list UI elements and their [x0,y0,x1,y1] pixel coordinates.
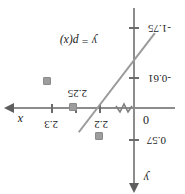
y-axis-label: y [144,172,149,184]
y-tick-label--1.75: -1.75 [148,23,171,34]
y-axis-line [133,8,135,190]
x-tick-label-2.2: 2.2 [94,119,108,130]
graph-canvas: 2.2 2.25 2.3 0.57 -0.61 -1.75 0 x y y = … [0,0,185,194]
x-tick-label-2.25: 2.25 [68,88,87,99]
y-tick-mark-2 [129,77,139,79]
data-point-2 [69,103,77,111]
y-axis-arrow-icon [130,183,140,193]
data-point-3 [43,77,51,85]
x-axis-arrow-icon [4,104,14,114]
y-tick-label--0.61: -0.61 [148,73,171,84]
origin-label: 0 [143,114,149,126]
y-tick-label-0.57: 0.57 [147,135,166,146]
y-tick-mark-1 [129,139,139,141]
x-tick-mark-3 [51,104,53,113]
data-point-1 [95,132,103,140]
axis-break-icon [113,101,133,115]
x-axis-label: x [18,114,23,126]
x-tick-label-2.3: 2.3 [44,119,58,130]
y-tick-mark-3 [129,27,139,29]
x-axis-line [10,107,175,109]
function-label: y = p(x) [60,35,97,47]
